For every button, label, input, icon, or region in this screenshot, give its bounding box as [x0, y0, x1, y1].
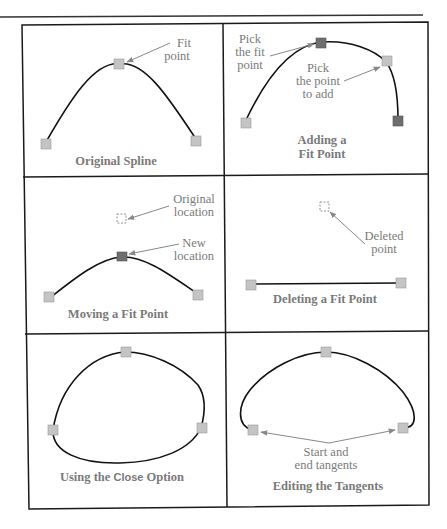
fit-point-start	[241, 118, 251, 128]
label-new-1: New	[182, 236, 206, 250]
arrow-end-tangent	[329, 430, 395, 443]
label-deleted-1: Deleted	[365, 229, 405, 243]
fit-point-start	[248, 425, 258, 435]
arrow-original	[128, 206, 169, 219]
label-pick-fit-2: the fit	[235, 45, 265, 59]
fit-point-end	[398, 423, 408, 433]
panel-deleting-fit-point: Deleted point Deleting a Fit Point	[246, 202, 406, 306]
fit-point-right	[197, 423, 207, 433]
caption-adding-2: Fit Point	[299, 147, 347, 161]
spline-curve	[241, 352, 415, 430]
top-rule	[0, 15, 423, 17]
panel-moving-fit-point: Original location New location Moving a …	[44, 192, 215, 321]
closed-spline-curve	[53, 352, 204, 463]
label-pick-fit-3: point	[237, 58, 263, 72]
fit-point-selected	[316, 38, 326, 48]
caption-adding-1: Adding a	[298, 133, 348, 147]
fit-point-end	[193, 290, 203, 300]
fit-point-end	[191, 136, 201, 146]
fit-point-top	[114, 59, 124, 69]
caption-editing-tangents: Editing the Tangents	[273, 479, 384, 493]
label-tangents-2: end tangents	[295, 458, 358, 472]
caption-deleting: Deleting a Fit Point	[273, 292, 378, 306]
fit-point-start	[41, 139, 51, 149]
original-location-marker	[117, 214, 126, 223]
fit-point-left	[48, 425, 58, 435]
label-new-2: location	[174, 249, 215, 263]
fit-point-top	[121, 347, 131, 357]
spline-curve	[46, 64, 196, 142]
label-fit-point-1: Fit	[177, 36, 191, 50]
panel-grid	[22, 22, 429, 509]
fit-point-end	[396, 278, 406, 288]
fit-point-top	[321, 347, 331, 357]
label-pick-add-1: Pick	[307, 61, 330, 75]
deleted-point-marker	[320, 202, 329, 211]
label-original-2: location	[174, 205, 215, 219]
label-fit-point-2: point	[164, 49, 190, 63]
label-pick-add-2: the point	[296, 74, 341, 88]
fit-point-end	[393, 116, 403, 126]
spline-editing-diagram: Fit point Original Spline Pick the fit p…	[0, 0, 447, 529]
label-pick-add-3: to add	[303, 87, 335, 101]
caption-close-option: Using the Close Option	[60, 470, 184, 484]
label-deleted-2: point	[371, 242, 397, 256]
arrow-pick-add	[344, 67, 380, 81]
caption-moving: Moving a Fit Point	[68, 307, 169, 321]
arrow-deleted	[330, 212, 365, 244]
caption-original-spline: Original Spline	[75, 154, 157, 168]
fit-point-add	[382, 56, 392, 66]
panel-editing-tangents: Start and end tangents Editing the Tange…	[241, 347, 415, 493]
caption-close-keyword: Close	[113, 471, 143, 483]
label-original-1: Original	[173, 192, 215, 206]
arrow-new	[129, 244, 179, 254]
fit-point-moved	[117, 252, 127, 261]
spline-line	[251, 283, 400, 284]
fit-point-start	[246, 280, 256, 290]
panel-adding-fit-point: Pick the fit point Pick the point to add…	[235, 32, 403, 161]
panel-original-spline: Fit point Original Spline	[41, 36, 201, 168]
label-tangents-1: Start and	[304, 445, 350, 459]
fit-point-start	[44, 292, 54, 302]
caption-close-post: Option	[143, 470, 184, 484]
panel-close-option: Using the Close Option	[48, 347, 207, 484]
label-pick-fit-1: Pick	[239, 32, 262, 46]
arrow-start-tangent	[261, 432, 329, 443]
caption-close-pre: Using the	[60, 470, 113, 484]
